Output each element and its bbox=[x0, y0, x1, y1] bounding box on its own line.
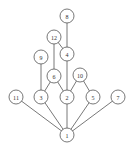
node-3: 3 bbox=[34, 90, 48, 104]
node-4: 4 bbox=[60, 47, 74, 61]
node-8: 8 bbox=[60, 9, 74, 23]
node-label: 11 bbox=[13, 95, 19, 101]
node-label: 2 bbox=[66, 95, 69, 101]
node-11: 11 bbox=[9, 90, 23, 104]
node-10: 10 bbox=[73, 68, 87, 82]
node-label: 4 bbox=[66, 52, 69, 58]
node-7: 7 bbox=[111, 90, 125, 104]
diagram-canvas: 812496101132571 bbox=[0, 0, 136, 148]
node-12: 12 bbox=[47, 30, 61, 44]
node-9: 9 bbox=[34, 50, 48, 64]
hasse-diagram: 812496101132571 bbox=[0, 0, 136, 148]
node-label: 6 bbox=[53, 74, 56, 80]
node-label: 1 bbox=[66, 133, 69, 139]
node-1: 1 bbox=[60, 128, 74, 142]
node-6: 6 bbox=[47, 69, 61, 83]
node-label: 3 bbox=[40, 95, 43, 101]
edges-layer bbox=[16, 16, 118, 135]
node-5: 5 bbox=[86, 90, 100, 104]
node-2: 2 bbox=[60, 90, 74, 104]
node-label: 8 bbox=[66, 14, 69, 20]
node-label: 7 bbox=[117, 95, 120, 101]
node-label: 9 bbox=[40, 55, 43, 61]
node-label: 12 bbox=[51, 35, 57, 41]
node-label: 10 bbox=[77, 73, 83, 79]
node-label: 5 bbox=[92, 95, 95, 101]
